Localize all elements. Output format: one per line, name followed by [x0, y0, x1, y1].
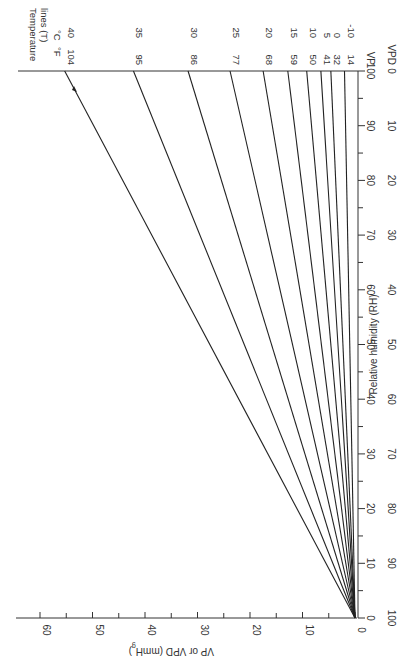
- vp-axis-close: ): [129, 646, 132, 657]
- rh-tick-label: 20: [365, 503, 376, 515]
- chart-title-line1: Temperature: [28, 8, 39, 61]
- vpd-tick-label: 100: [386, 610, 397, 627]
- vpd-tick-label: 10: [386, 120, 397, 132]
- rh-tick-label: 100: [365, 63, 376, 80]
- temperature-line: [331, 71, 355, 618]
- rh-tick-label: 0: [365, 615, 376, 621]
- rh-tick-label: 10: [365, 558, 376, 570]
- rh-tick-label: 60: [365, 284, 376, 296]
- vp-tick-label: 20: [251, 624, 262, 636]
- vp-tick-label: 50: [94, 624, 105, 636]
- temp-label-f: 95: [134, 54, 145, 65]
- temperature-line: [263, 71, 355, 618]
- vp-tick-label: 60: [41, 624, 52, 636]
- vp-rh-nomogram: 0102030405060010010902080307040605050604…: [0, 0, 410, 660]
- temperature-lines: [65, 71, 355, 618]
- temp-label-f: 86: [189, 54, 200, 65]
- temp-label-f: 59: [289, 54, 300, 65]
- vp-tick-label: 0: [356, 627, 367, 633]
- vpd-tick-label: 30: [386, 230, 397, 242]
- temperature-line: [188, 71, 355, 618]
- temp-label-f: 50: [308, 54, 319, 65]
- temp-label-c: 40: [66, 27, 77, 38]
- axes: [16, 71, 365, 618]
- temp-label-c: 5: [322, 33, 333, 38]
- vpd-tick-label: 60: [386, 394, 397, 406]
- vpd-tick-label: 40: [386, 284, 397, 296]
- rh-tick-label: 80: [365, 175, 376, 187]
- unit-c-label: °C: [52, 30, 63, 41]
- rh-axis-title: Relative humidity (RH): [368, 294, 379, 394]
- temp-label-f: 104: [66, 49, 77, 65]
- vp-axis-title: VP or VPD (mmHg): [129, 643, 214, 658]
- temp-label-c: 10: [308, 27, 319, 38]
- vpd-tick-label: 0: [386, 68, 397, 74]
- temperature-line: [307, 71, 355, 618]
- temp-label-f: 68: [264, 54, 275, 65]
- temperature-line: [65, 71, 355, 618]
- temp-label-c: 0: [332, 33, 343, 38]
- temp-label-c: 20: [264, 27, 275, 38]
- vp-end-label: VP: [365, 52, 376, 66]
- temperature-line: [230, 71, 355, 618]
- temp-label-f: 77: [231, 54, 242, 65]
- temp-label-c: 25: [231, 27, 242, 38]
- vp-tick-label: 10: [304, 624, 315, 636]
- vp-tick-label: 40: [146, 624, 157, 636]
- rh-tick-label: 70: [365, 230, 376, 242]
- temp-label-c: 35: [134, 27, 145, 38]
- rh-tick-label: 30: [365, 448, 376, 460]
- unit-f-label: °F: [52, 47, 63, 57]
- temp-label-f: 32: [332, 54, 343, 65]
- temp-label-c: 15: [289, 27, 300, 38]
- vp-tick-label: 30: [199, 624, 210, 636]
- temp-label-c: -10: [346, 24, 357, 38]
- temp-label-c: 30: [189, 27, 200, 38]
- temp-label-f: 14: [346, 54, 357, 65]
- vpd-tick-label: 90: [386, 558, 397, 570]
- vpd-tick-label: 80: [386, 503, 397, 515]
- vpd-end-label: VPD: [386, 44, 397, 65]
- vpd-tick-label: 50: [386, 339, 397, 351]
- chart-title-line2: lines (T): [39, 8, 50, 42]
- vpd-tick-label: 70: [386, 448, 397, 460]
- temp-label-f: 41: [322, 54, 333, 65]
- rh-tick-label: 90: [365, 120, 376, 132]
- vpd-tick-label: 20: [386, 175, 397, 187]
